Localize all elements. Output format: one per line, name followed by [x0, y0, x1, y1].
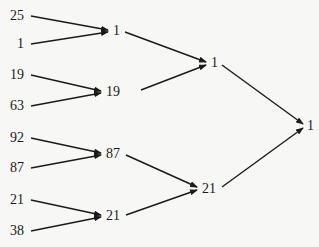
- edge-1-to-root: [222, 65, 303, 124]
- edge-21-to-21: [31, 200, 101, 215]
- edge-87-to-21-l2: [126, 155, 197, 187]
- edge-38-to-21: [31, 217, 101, 231]
- edge-19-to-1-l2: [141, 65, 206, 90]
- edge-21-to-root: [222, 128, 303, 187]
- edge-92-to-87: [31, 138, 101, 153]
- leaf-node: 38: [10, 224, 24, 238]
- leaf-node: 21: [10, 193, 24, 207]
- level1-node: 1: [113, 24, 120, 38]
- root-node: 1: [307, 119, 314, 133]
- edge-25-to-1: [31, 16, 108, 30]
- leaf-node: 63: [10, 99, 24, 113]
- level1-node: 87: [106, 147, 120, 161]
- edge-19-to-19: [31, 75, 101, 91]
- level2-node: 21: [202, 182, 216, 196]
- leaf-node: 1: [17, 37, 24, 51]
- edges: [0, 0, 319, 247]
- level2-node: 1: [211, 56, 218, 70]
- edge-63-to-19: [31, 93, 101, 106]
- leaf-node: 87: [10, 161, 24, 175]
- edge-87-to-87: [31, 155, 101, 168]
- leaf-node: 19: [10, 68, 24, 82]
- edge-21-to-21-l2: [126, 190, 197, 215]
- tournament-tree-diagram: 25 1 19 63 92 87 21 38 1 19 87 21 1 21 1: [0, 0, 319, 247]
- edge-1-to-1-l2: [125, 32, 206, 62]
- level1-node: 21: [106, 209, 120, 223]
- level1-node: 19: [106, 85, 120, 99]
- edge-1-to-1: [31, 32, 108, 44]
- leaf-node: 92: [10, 131, 24, 145]
- leaf-node: 25: [10, 9, 24, 23]
